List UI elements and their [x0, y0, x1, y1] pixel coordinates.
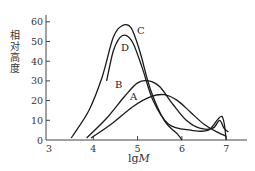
y-ticks: 0102030405060 [31, 16, 50, 145]
curve-label-b: B [115, 79, 122, 90]
curve-label-d: D [121, 42, 129, 53]
curves [71, 24, 228, 140]
x-tick-label: 4 [90, 143, 96, 154]
curve-label-c: C [137, 25, 145, 36]
x-tick-label: 6 [179, 143, 185, 154]
curve-label-a: A [129, 91, 138, 102]
y-tick-label: 0 [37, 135, 43, 146]
y-tick-label: 60 [31, 16, 43, 27]
plot-area: 0102030405060 34567 C D B A [0, 0, 255, 171]
y-tick-label: 30 [31, 75, 43, 86]
y-tick-label: 20 [31, 95, 43, 106]
y-tick-label: 50 [31, 36, 43, 47]
y-tick-label: 10 [31, 115, 43, 126]
x-tick-label: 7 [223, 143, 229, 154]
x-tick-label: 5 [135, 143, 141, 154]
x-ticks: 34567 [46, 136, 229, 154]
x-tick-label: 3 [46, 143, 52, 154]
y-tick-label: 40 [31, 56, 43, 67]
